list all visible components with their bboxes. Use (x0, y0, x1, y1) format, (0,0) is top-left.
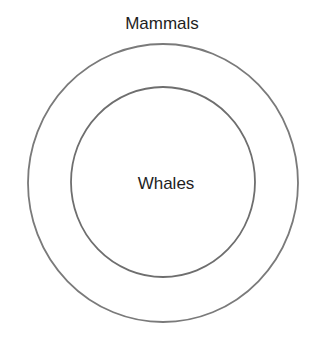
nested-circles-diagram: Mammals Whales (0, 0, 310, 339)
outer-circle-label: Mammals (119, 15, 205, 32)
inner-circle-label: Whales (127, 175, 205, 192)
circles-graphic (0, 0, 310, 339)
